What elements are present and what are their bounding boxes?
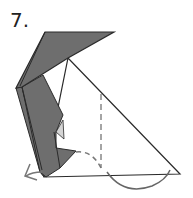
fold-arrow-left bbox=[26, 172, 42, 176]
origami-diagram bbox=[0, 0, 193, 198]
